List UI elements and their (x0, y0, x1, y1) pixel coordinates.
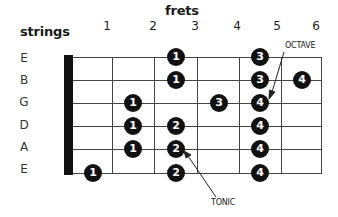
finger-dot: 3 (251, 48, 269, 66)
finger-dot: 1 (124, 117, 142, 135)
tonic-dot: 2 (167, 140, 185, 158)
fretboard-grid (0, 0, 338, 217)
finger-dot: 1 (124, 94, 142, 112)
nut (64, 55, 73, 175)
finger-dot: 3 (210, 94, 228, 112)
finger-dot: 1 (84, 164, 102, 182)
finger-dot: 1 (167, 48, 185, 66)
finger-dot: 4 (293, 71, 311, 89)
tonic-arrow-line (188, 156, 216, 197)
tonic-arrow-head (184, 151, 191, 158)
tonic-label: TONIC (211, 198, 235, 207)
finger-dot: 4 (251, 117, 269, 135)
finger-dot: 4 (251, 164, 269, 182)
finger-dot: 1 (167, 71, 185, 89)
octave-arrow-head (269, 90, 275, 99)
finger-dot: 3 (251, 71, 269, 89)
octave-label: OCTAVE (285, 41, 315, 50)
finger-dot: 2 (167, 117, 185, 135)
finger-dot: 4 (251, 140, 269, 158)
octave-dot: 4 (251, 94, 269, 112)
finger-dot: 2 (167, 164, 185, 182)
finger-dot: 1 (124, 140, 142, 158)
